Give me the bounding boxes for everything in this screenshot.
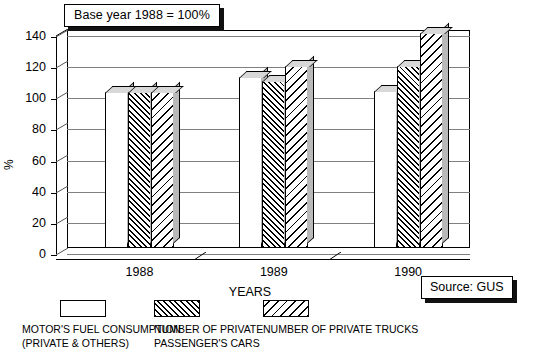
legend-label-3: NUMBER OF PRIVATE TRUCKS xyxy=(263,322,418,336)
y-tick-label: 0 xyxy=(4,247,46,261)
y-tick-label: 60 xyxy=(4,154,46,168)
legend-item-3: NUMBER OF PRIVATE TRUCKS xyxy=(263,300,309,317)
legend-swatch-solid-white xyxy=(60,300,106,317)
y-axis-tick-mark xyxy=(51,224,57,225)
y-tick-label: 40 xyxy=(4,185,46,199)
bar-1989-series-3 xyxy=(285,66,308,248)
plot-area xyxy=(56,30,470,259)
bar-chart: % 140120100806040200 198819891990 YEARS xyxy=(0,30,500,270)
x-tick-label-1990: 1990 xyxy=(394,265,422,279)
legend-label-line2: PASSENGER'S CARS xyxy=(154,336,263,350)
y-tick-label: 100 xyxy=(4,91,46,105)
bar-1989-series-1 xyxy=(239,77,262,248)
x-tick-label-1989: 1989 xyxy=(260,265,288,279)
side-wall-tick xyxy=(56,248,68,255)
bar-group-1988 xyxy=(67,30,201,248)
x-axis: 198819891990 xyxy=(56,259,470,260)
base-year-callout: Base year 1988 = 100% xyxy=(64,4,220,27)
legend-item-1: MOTOR'S FUEL CONSUMPTION(PRIVATE & OTHER… xyxy=(22,300,106,317)
y-axis-ticks: 140120100806040200 xyxy=(0,30,46,270)
bar-groups xyxy=(67,30,470,248)
bar-side-face xyxy=(307,56,314,244)
y-axis-tick-mark xyxy=(51,162,57,163)
y-axis-tick-mark xyxy=(51,193,57,194)
x-axis-baseline xyxy=(56,259,470,260)
y-tick-label: 140 xyxy=(4,29,46,43)
legend-swatch-hatch-sparse xyxy=(263,300,309,317)
gridline xyxy=(67,254,470,255)
y-tick-label: 120 xyxy=(4,60,46,74)
y-axis-tick-mark xyxy=(51,130,57,131)
legend-label-line1: NUMBER OF PRIVATE TRUCKS xyxy=(263,322,418,336)
bar-1989-series-2 xyxy=(262,81,285,248)
legend-item-2: NUMBER OF PRIVATEPASSENGER'S CARS xyxy=(154,300,200,317)
y-axis-tick-mark xyxy=(51,99,57,100)
bar-1988-series-3 xyxy=(151,92,174,248)
y-tick-label: 80 xyxy=(4,122,46,136)
bar-1988-series-2 xyxy=(128,92,151,248)
bar-1988-series-1 xyxy=(105,92,128,248)
bar-1990-series-2 xyxy=(397,66,420,248)
legend-swatch-hatch-dense xyxy=(154,300,200,317)
bar-1990-series-3 xyxy=(420,33,443,248)
chart-legend: MOTOR'S FUEL CONSUMPTION(PRIVATE & OTHER… xyxy=(0,300,533,352)
y-axis-tick-mark xyxy=(51,255,57,256)
bar-group-1989 xyxy=(201,30,335,248)
legend-label-line1: NUMBER OF PRIVATE xyxy=(154,322,263,336)
bar-group-1990 xyxy=(336,30,470,248)
source-callout: Source: GUS xyxy=(421,276,513,299)
bar-side-face xyxy=(442,23,449,244)
bar-1990-series-1 xyxy=(374,91,397,248)
y-axis-tick-mark xyxy=(51,68,57,69)
y-axis-tick-mark xyxy=(51,37,57,38)
bar-side-face xyxy=(173,82,180,244)
x-tick-label-1988: 1988 xyxy=(126,265,154,279)
legend-label-2: NUMBER OF PRIVATEPASSENGER'S CARS xyxy=(154,322,263,350)
y-tick-label: 20 xyxy=(4,216,46,230)
